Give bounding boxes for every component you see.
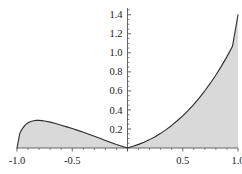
x-tick-label: -0.5	[64, 155, 81, 166]
y-tick-label: 1.0	[109, 47, 122, 58]
x-tick-label: 1.0	[231, 155, 242, 166]
y-tick-label: 1.2	[109, 28, 122, 39]
y-tick-label: 0.4	[109, 105, 123, 116]
x-tick-label: -1.0	[9, 155, 26, 166]
chart-figure: 0.20.40.60.81.01.21.4-1.0-0.50.51.0	[0, 0, 242, 174]
y-tick-label: 1.4	[109, 9, 123, 20]
y-tick-label: 0.2	[109, 124, 122, 135]
y-tick-label: 0.8	[109, 66, 122, 77]
y-tick-label: 0.6	[109, 85, 122, 96]
area-chart-plot: 0.20.40.60.81.01.21.4-1.0-0.50.51.0	[0, 0, 242, 174]
x-tick-label: 0.5	[176, 155, 189, 166]
